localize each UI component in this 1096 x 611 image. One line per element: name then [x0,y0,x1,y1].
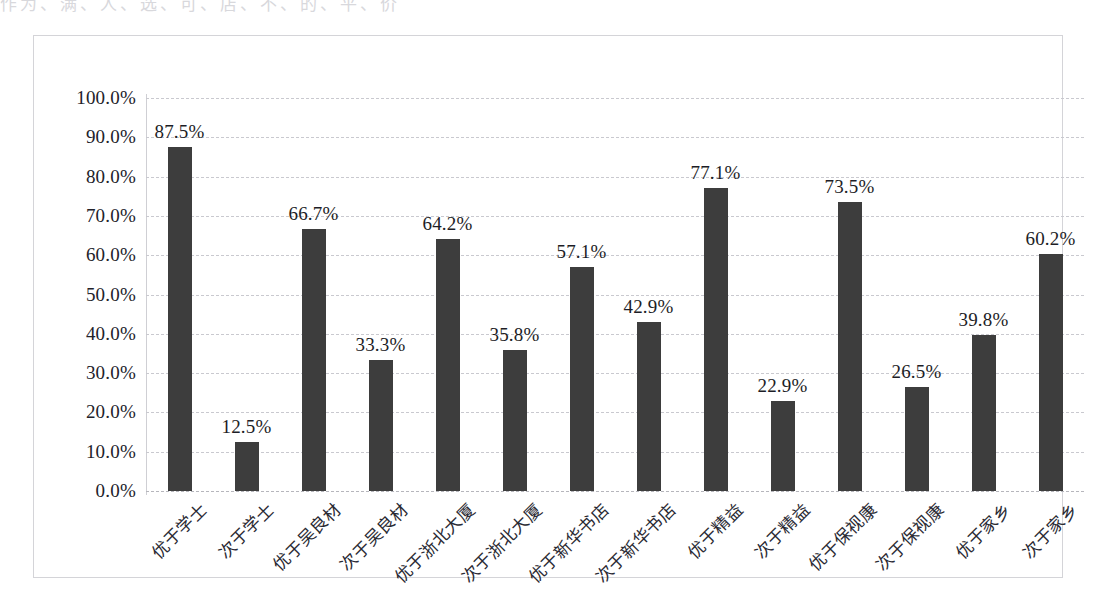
x-axis-category-label: 优于精益 [680,496,747,563]
y-axis-tick-label: 10.0% [86,441,136,463]
bar [503,350,527,491]
bar [369,360,393,491]
bar [637,322,661,491]
gridline [146,137,1084,138]
x-axis-category-label: 优于吴良材 [266,496,346,576]
x-axis-category-label: 优于保视康 [802,496,882,576]
bar [905,387,929,491]
bar [235,442,259,491]
y-axis-tick-label: 20.0% [86,401,136,423]
bar-value-label: 57.1% [556,241,606,263]
bar [771,401,795,491]
bar-value-label: 39.8% [958,309,1008,331]
y-axis-tick-label: 40.0% [86,323,136,345]
gridline [146,452,1084,453]
y-axis-tick-label: 90.0% [86,126,136,148]
bar-value-label: 33.3% [355,334,405,356]
bar-value-label: 35.8% [489,324,539,346]
bar-value-label: 12.5% [221,416,271,438]
gridline [146,255,1084,256]
x-axis-category-label: 次于家乡 [1015,496,1082,563]
bar [570,267,594,491]
bar-value-label: 26.5% [891,361,941,383]
y-axis-tick-label: 80.0% [86,166,136,188]
bar-value-label: 60.2% [1025,228,1075,250]
y-axis-tick-label: 0.0% [96,480,136,502]
gridline [146,216,1084,217]
scan-top-text-remnant: 作为、满、人、选、可、店、不、的、平、价 [0,0,1096,14]
gridline [146,373,1084,374]
bar-value-label: 22.9% [757,375,807,397]
chart-frame: 100.0%90.0%80.0%70.0%60.0%50.0%40.0%30.0… [33,35,1063,578]
x-axis-category-labels: 优于学士次于学士优于吴良材次于吴良材优于浙北大厦次于浙北大厦优于新华书店次于新华… [146,496,1084,611]
x-axis-category-label: 次于精益 [747,496,814,563]
bar [168,147,192,491]
gridline [146,412,1084,413]
y-axis-tick-label: 50.0% [86,284,136,306]
bar-value-label: 87.5% [154,121,204,143]
x-axis-category-label: 优于学士 [144,496,211,563]
bar-value-label: 64.2% [422,213,472,235]
plot-area: 87.5%12.5%66.7%33.3%64.2%35.8%57.1%42.9%… [146,98,1084,491]
x-axis-category-label: 优于家乡 [948,496,1015,563]
bar [1039,254,1063,491]
bar-value-label: 66.7% [288,203,338,225]
gridline [146,491,1084,492]
y-axis-tick-label: 60.0% [86,244,136,266]
gridline [146,98,1084,99]
x-axis-category-label: 次于保视康 [869,496,949,576]
y-axis-tick-label: 30.0% [86,362,136,384]
y-axis-tick-labels: 100.0%90.0%80.0%70.0%60.0%50.0%40.0%30.0… [34,98,136,491]
bar [972,335,996,491]
bar-value-label: 73.5% [824,176,874,198]
gridline [146,295,1084,296]
bar [838,202,862,491]
bar-value-label: 77.1% [690,162,740,184]
y-axis-tick-label: 100.0% [76,87,136,109]
bar [704,188,728,491]
y-axis-tick-label: 70.0% [86,205,136,227]
gridline [146,334,1084,335]
bar [436,239,460,491]
x-axis-category-label: 次于学士 [211,496,278,563]
gridline [146,177,1084,178]
bar-value-label: 42.9% [623,296,673,318]
bar [302,229,326,491]
